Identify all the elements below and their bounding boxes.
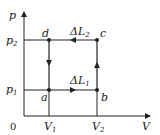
arrow-down-icon <box>46 60 52 66</box>
v2-label: V2 <box>92 120 105 134</box>
point-a-label: a <box>41 91 48 104</box>
arrow-right-icon <box>70 87 76 93</box>
p1-label: p1 <box>6 83 18 97</box>
point-c-label: c <box>100 27 106 40</box>
v1-label: V1 <box>44 120 56 134</box>
point-c <box>95 38 99 42</box>
pv-diagram: p V 0 p2 p1 V1 V2 a b c d ΔL1 ΔL2 <box>0 0 160 135</box>
point-a <box>47 88 51 92</box>
p2-label: p2 <box>6 34 18 48</box>
arrow-up-icon <box>94 62 100 68</box>
delta-l2-label: ΔL2 <box>69 25 90 39</box>
point-d-label: d <box>42 27 49 40</box>
point-b <box>95 88 99 92</box>
point-b-label: b <box>101 91 108 104</box>
y-axis-label: p <box>9 9 16 22</box>
delta-l1-label: ΔL1 <box>69 74 90 88</box>
origin-label: 0 <box>10 121 16 132</box>
x-axis-label: V <box>142 120 151 133</box>
